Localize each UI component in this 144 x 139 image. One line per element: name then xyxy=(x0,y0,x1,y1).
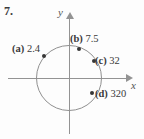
x-axis-label: x xyxy=(131,79,136,91)
point-value-d: 320 xyxy=(110,88,126,99)
point-tag-d: (d) xyxy=(95,88,108,99)
point-tag-c: (c) xyxy=(95,55,107,66)
y-axis-label: y xyxy=(58,6,63,18)
point-label-a: (a) 2.4 xyxy=(12,43,40,54)
point-value-c: 32 xyxy=(109,55,120,66)
point-label-d: (d) 320 xyxy=(95,88,126,99)
figure-panel: 7. y x (a) 2.4 (b) 7.5 (c) 32 (d) 320 xyxy=(0,0,144,139)
exercise-number: 7. xyxy=(4,4,13,19)
point-dot-d xyxy=(90,91,94,95)
point-tag-a: (a) xyxy=(12,43,24,54)
point-dot-a xyxy=(42,54,46,58)
point-value-b: 7.5 xyxy=(85,33,98,44)
point-tag-b: (b) xyxy=(70,33,83,44)
point-dot-b xyxy=(77,47,81,51)
point-label-c: (c) 32 xyxy=(95,55,120,66)
point-label-b: (b) 7.5 xyxy=(70,33,99,44)
point-value-a: 2.4 xyxy=(27,43,40,54)
y-axis-arrow-icon xyxy=(66,12,74,19)
